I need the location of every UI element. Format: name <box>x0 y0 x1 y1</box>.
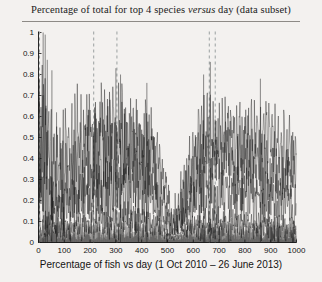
chart-canvas <box>0 0 322 282</box>
y-axis-tick-label: 0.2 <box>8 196 34 205</box>
y-axis-tick-label: 1 <box>8 28 34 37</box>
y-axis-tick-label: 0.8 <box>8 70 34 79</box>
y-axis-tick-label: 0.7 <box>8 91 34 100</box>
figure-root: Percentage of total for top 4 species ve… <box>0 0 322 282</box>
y-axis-tick-label: 0.3 <box>8 175 34 184</box>
y-axis-tick-label: 0.9 <box>8 49 34 58</box>
x-axis-label: Percentage of fish vs day (1 Oct 2010 – … <box>0 259 322 270</box>
x-axis-tick-label: 1000 <box>282 246 312 255</box>
plot-area: 00.10.20.30.40.50.60.70.80.91 0100200300… <box>0 0 322 282</box>
y-axis-tick-label: 0.5 <box>8 133 34 142</box>
y-axis-tick-label: 0.4 <box>8 154 34 163</box>
y-axis-tick-label: 0.6 <box>8 112 34 121</box>
y-axis-tick-label: 0.1 <box>8 217 34 226</box>
